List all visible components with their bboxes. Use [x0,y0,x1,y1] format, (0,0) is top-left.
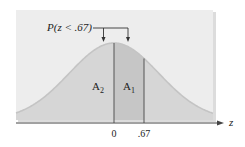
axis-arrow-icon [217,121,224,126]
annotation-label: P(z < .67) [46,21,92,34]
tick-label-067: .67 [138,128,151,139]
tick-label-0: 0 [112,128,117,139]
normal-curve-figure: P(z < .67) A2 A1 0 .67 z [0,0,245,147]
axis-label-z: z [228,116,234,128]
